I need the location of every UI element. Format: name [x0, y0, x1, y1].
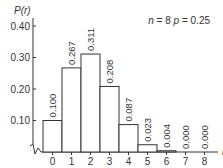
x-axis-label: r	[222, 147, 223, 157]
bar	[119, 125, 138, 152]
x-tick-label: 1	[69, 156, 75, 167]
y-tick-label: 0.40	[11, 21, 31, 32]
bar	[157, 151, 176, 152]
x-tick-label: 2	[88, 156, 94, 167]
x-tick-label: 5	[145, 156, 151, 167]
bar	[43, 121, 62, 153]
bar-value-label: 0.208	[104, 60, 115, 84]
x-tick-label: 3	[107, 156, 113, 167]
x-tick-label: 0	[50, 156, 56, 167]
bar-value-label: 0.100	[47, 94, 58, 118]
bar	[138, 145, 157, 152]
bar-value-label: 0.267	[66, 41, 77, 65]
binomial-distribution-chart: P(r)0.100.200.300.40r00.10010.26720.3113…	[0, 0, 223, 168]
y-tick-label: 0.20	[11, 84, 31, 95]
bar	[100, 86, 119, 152]
x-tick-label: 7	[183, 156, 189, 167]
bar-value-label: 0.311	[85, 28, 96, 51]
bar-value-label: 0.004	[161, 124, 172, 148]
parameters-annotation: n = 8 p = 0.25	[148, 15, 210, 26]
bar-value-label: 0.000	[180, 125, 191, 149]
y-axis-label: P(r)	[14, 5, 31, 16]
x-tick-label: 8	[202, 156, 208, 167]
x-tick-label: 4	[126, 156, 132, 167]
bar	[62, 68, 81, 152]
axis-break-icon	[30, 144, 41, 154]
y-tick-label: 0.10	[11, 115, 31, 126]
bar-value-label: 0.023	[142, 118, 153, 142]
bar-value-label: 0.087	[123, 98, 134, 122]
x-tick-label: 6	[164, 156, 170, 167]
y-tick-label: 0.30	[11, 52, 31, 63]
bar-value-label: 0.000	[199, 125, 210, 149]
bar	[81, 54, 100, 152]
